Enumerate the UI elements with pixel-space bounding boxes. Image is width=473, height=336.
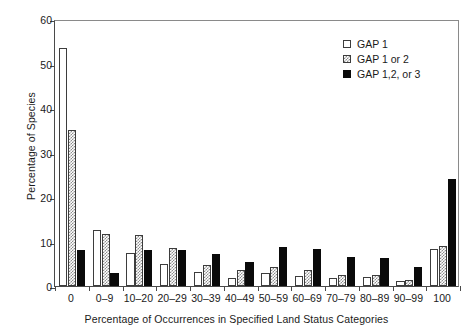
bar-gap-1-or-2-100 [439,246,447,286]
x-axis-tick [393,286,394,291]
bar-gap-1-0_9 [93,230,101,286]
legend-swatch-icon [343,70,351,78]
legend-swatch-icon [343,40,351,48]
bar-chart-figure: Percentage of Species 0102030405060 00–9… [0,0,473,336]
x-axis-tick [359,286,360,291]
bar-gap-1-or-2-90_99 [405,280,413,286]
y-axis-title: Percentage of Species [25,41,37,251]
x-axis-tick-label: 100 [433,292,451,304]
bar-gap-1-100 [430,249,438,286]
bar-gap-1-or-2-40_49 [237,270,245,286]
bar-gap-1-2-or-3-30_39 [212,254,220,286]
bar-gap-1-2-or-3-100 [448,179,456,286]
bar-gap-1-2-or-3-10_20 [144,250,152,286]
bar-gap-1-40_49 [228,278,236,286]
x-axis-tick-label: 50–59 [259,292,288,304]
bar-gap-1-or-2-30_39 [203,265,211,286]
bar-gap-1-2-or-3-60_69 [313,249,321,286]
bar-gap-1-80_89 [363,277,371,286]
bar-gap-1-50_59 [261,273,269,286]
bar-gap-1-2-or-3-20_29 [178,250,186,286]
x-axis-tick-label: 80–89 [360,292,389,304]
x-axis-title: Percentage of Occurrences in Specified L… [0,313,473,325]
x-axis-tick [156,286,157,291]
bar-gap-1-2-or-3-40_49 [245,262,253,286]
x-axis-tick [190,286,191,291]
x-axis-tick [426,286,427,291]
x-axis-tick [325,286,326,291]
bar-gap-1-2-or-3-50_59 [279,247,287,286]
y-axis-tick-label: 10 [22,237,52,248]
legend-label: GAP 1,2, or 3 [357,68,420,80]
y-axis-tick-label: 30 [22,148,52,159]
x-axis-tick-label: 90–99 [394,292,423,304]
bar-gap-1-30_39 [194,272,202,286]
x-axis-tick-label: 0–9 [96,292,114,304]
y-axis-tick-label: 50 [22,59,52,70]
x-axis-tick [55,286,56,291]
bar-gap-1-0 [59,48,67,286]
bar-gap-1-or-2-70_79 [338,275,346,286]
bar-gap-1-2-or-3-0 [77,250,85,286]
x-axis-tick-label: 30–39 [191,292,220,304]
x-axis-tick [123,286,124,291]
bar-gap-1-60_69 [295,276,303,286]
x-axis-tick-label: 20–29 [158,292,187,304]
x-axis-tick [460,286,461,291]
x-axis-tick-label: 10–20 [124,292,153,304]
bar-gap-1-or-2-10_20 [135,235,143,286]
bar-gap-1-or-2-20_29 [169,248,177,286]
bar-gap-1-or-2-0_9 [102,234,110,286]
x-axis-tick [258,286,259,291]
x-axis-tick [224,286,225,291]
bar-gap-1-90_99 [396,281,404,286]
legend-item: GAP 1 or 2 [343,51,420,66]
bar-gap-1-or-2-50_59 [270,267,278,286]
bar-gap-1-2-or-3-70_79 [347,257,355,286]
y-axis-tick-label: 60 [22,15,52,26]
x-axis-tick-label: 40–49 [225,292,254,304]
legend-item: GAP 1,2, or 3 [343,66,420,81]
y-axis-tick-label: 20 [22,193,52,204]
x-axis-tick [89,286,90,291]
y-axis-tick-label: 40 [22,104,52,115]
x-axis-tick-label: 70–79 [326,292,355,304]
bar-gap-1-20_29 [160,264,168,286]
bar-gap-1-2-or-3-80_89 [380,258,388,286]
legend: GAP 1GAP 1 or 2GAP 1,2, or 3 [343,36,420,81]
bar-gap-1-10_20 [126,253,134,286]
bar-gap-1-or-2-80_89 [372,275,380,286]
x-axis-tick-label: 0 [68,292,74,304]
bar-gap-1-2-or-3-90_99 [414,267,422,286]
bar-gap-1-or-2-0 [68,130,76,286]
y-axis-tick-label: 0 [22,282,52,293]
legend-item: GAP 1 [343,36,420,51]
legend-label: GAP 1 [357,38,388,50]
bar-gap-1-2-or-3-0_9 [110,273,118,286]
x-axis-tick-label: 60–69 [293,292,322,304]
legend-label: GAP 1 or 2 [357,53,409,65]
x-axis-tick [291,286,292,291]
bar-gap-1-70_79 [329,278,337,286]
bar-gap-1-or-2-60_69 [304,270,312,286]
legend-swatch-icon [343,55,351,63]
